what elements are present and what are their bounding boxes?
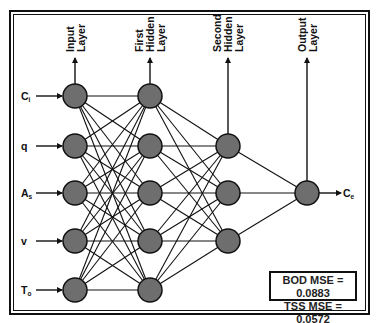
output-variable-label: Ce [343,187,355,200]
input-variable-label: Ci [21,90,31,103]
connection-line [150,96,228,146]
neuron [63,229,87,253]
neuron [138,84,162,108]
input-variable-label: v [21,235,27,247]
neuron [216,181,240,205]
layer-label-line: Layer [233,24,245,52]
connection-line [228,193,307,241]
neuron [63,134,87,158]
neuron [216,229,240,253]
neuron [63,84,87,108]
neuron [138,134,162,158]
mse-results-box: BOD MSE = 0.0883 TSS MSE = 0.0572 [269,271,357,301]
neuron [295,181,319,205]
neuron [138,181,162,205]
layer-label: FirstHiddenLayer [133,16,167,52]
connection-lines [75,96,307,290]
input-variable-label: As [21,187,33,200]
input-variable-label: q [21,140,27,152]
layer-label: InputLayer [64,24,87,52]
layer-label-line: Layer [307,24,319,52]
neuron [63,278,87,302]
neuron [216,134,240,158]
layer-label: OutputLayer [296,17,319,52]
connection-line [228,146,307,193]
layer-labels: InputLayerFirstHiddenLayerSecondHiddenLa… [64,14,319,52]
neuron [138,278,162,302]
layer-label: SecondHiddenLayer [211,14,245,52]
neuron [63,181,87,205]
layer-label-line: Layer [75,24,87,52]
neuron [138,229,162,253]
layer-label-line: Layer [155,24,167,52]
bod-mse-text: BOD MSE = 0.0883 [271,274,355,300]
input-variable-label: To [21,284,31,297]
connection-line [150,241,228,290]
tss-mse-text: TSS MSE = 0.0572 [271,300,355,323]
